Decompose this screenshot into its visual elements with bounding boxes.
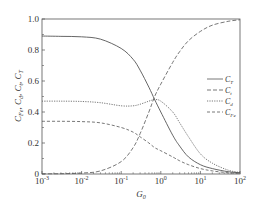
legend-label: CT — [225, 75, 234, 85]
x-tick-label: 101 — [194, 175, 206, 186]
legend: CTCtCdCFe — [207, 75, 236, 118]
y-axis-ticks: 00.20.40.60.81.0 — [28, 14, 45, 179]
legend-label: Ct — [225, 86, 232, 96]
x-tick-label: 10-1 — [114, 175, 128, 186]
series-line-c-d — [42, 100, 240, 173]
legend-label: Cd — [225, 97, 233, 107]
series-lines — [42, 20, 240, 174]
plot-frame — [42, 19, 240, 174]
y-tick-label: 0.4 — [28, 107, 40, 117]
legend-label: CFe — [225, 108, 236, 118]
x-tick-label: 10-2 — [75, 175, 89, 186]
y-tick-label: 0.6 — [28, 76, 40, 86]
x-tick-label: 100 — [155, 175, 167, 186]
x-axis-label: G0 — [136, 189, 146, 200]
series-line-c-fe — [42, 121, 240, 173]
x-tick-label: 102 — [234, 175, 246, 186]
series-line-c-t — [42, 20, 240, 174]
y-tick-label: 1.0 — [28, 14, 40, 24]
line-chart: 00.20.40.60.81.0 10-310-210-1100101102 C… — [0, 0, 256, 209]
y-tick-label: 0.8 — [28, 45, 40, 55]
x-axis-label-sub: 0 — [143, 194, 146, 200]
y-axis-label: CFe, Cd, Ct, CT — [13, 69, 24, 122]
x-tick-label: 10-3 — [35, 175, 49, 186]
y-tick-label: 0.2 — [28, 138, 39, 148]
series-line-c-t — [42, 36, 240, 173]
